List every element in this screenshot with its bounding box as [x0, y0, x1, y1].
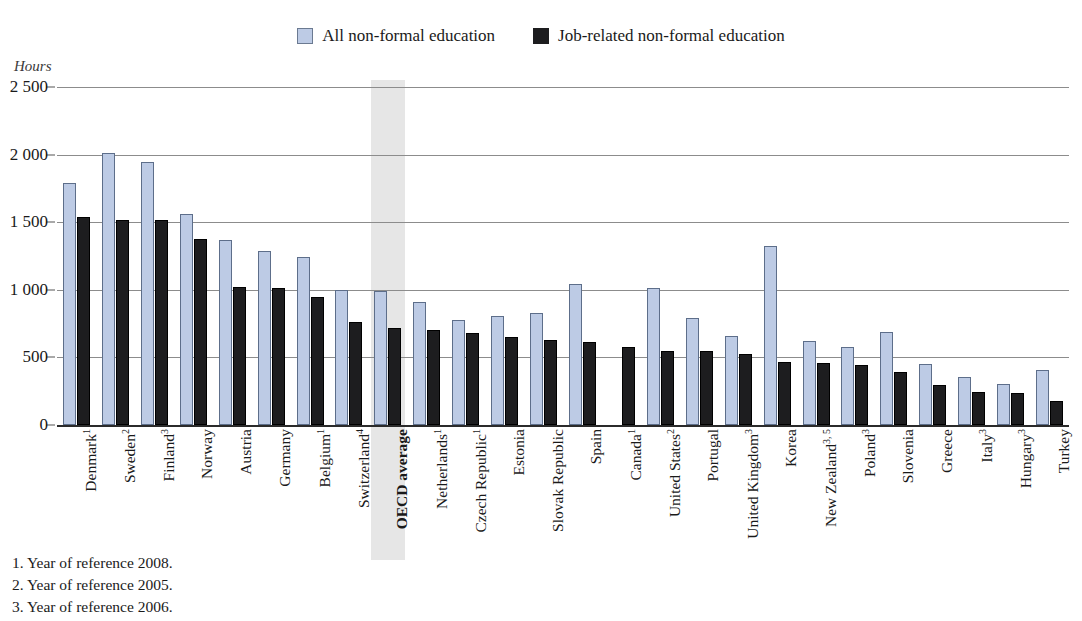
bar-group: [141, 87, 168, 425]
x-axis-label: Czech Republic1: [472, 429, 489, 533]
bar-job-related: [817, 363, 830, 425]
y-tick-label-2500: 2 500: [10, 77, 48, 97]
bar-job-related: [933, 385, 946, 425]
y-axis-units-label: Hours: [14, 58, 52, 75]
legend-swatch-job-icon: [533, 28, 549, 44]
bar-group: [219, 87, 246, 425]
x-axis-label: Sweden2: [121, 429, 138, 483]
bar-all-non-formal: [958, 377, 971, 425]
bar-job-related: [661, 351, 674, 425]
x-axis-label: Denmark1: [82, 429, 99, 492]
x-axis-label: Poland3: [861, 429, 878, 477]
bar-job-related: [583, 342, 596, 425]
bar-group: [258, 87, 285, 425]
x-axis-labels: Denmark1Sweden2Finland3NorwayAustriaGerm…: [57, 429, 1069, 549]
x-axis-label: Slovenia: [900, 429, 916, 483]
bar-all-non-formal: [647, 288, 660, 425]
x-axis-label: Turkey: [1056, 429, 1072, 473]
legend-swatch-all-icon: [297, 28, 313, 44]
gridline-500: [57, 357, 1069, 358]
bar-group: [841, 87, 868, 425]
bar-group: [102, 87, 129, 425]
bar-job-related: [466, 333, 479, 425]
bar-job-related: [311, 297, 324, 425]
y-tick-label-500: 500: [23, 347, 49, 367]
legend-item-all-non-formal: All non-formal education: [297, 26, 495, 46]
bar-job-related: [1050, 401, 1063, 425]
chart-legend: All non-formal education Job-related non…: [0, 26, 1082, 46]
x-axis-label: Netherlands1: [433, 429, 450, 509]
footnote-2: 2. Year of reference 2005.: [12, 574, 712, 596]
x-axis-label: Belgium1: [316, 429, 333, 487]
footnote-1: 1. Year of reference 2008.: [12, 552, 712, 574]
y-tick-label-0: 0: [40, 415, 49, 435]
x-axis-label: United Kingdom3: [744, 429, 761, 539]
bar-all-non-formal: [297, 257, 310, 425]
bar-job-related: [77, 217, 90, 425]
bar-group: [491, 87, 518, 425]
bar-group: [180, 87, 207, 425]
legend-label-job: Job-related non-formal education: [558, 26, 785, 46]
bar-all-non-formal: [1036, 370, 1049, 425]
bar-group: [608, 87, 635, 425]
bar-all-non-formal: [180, 214, 193, 425]
bar-all-non-formal: [141, 162, 154, 425]
chart-container: All non-formal education Job-related non…: [0, 0, 1082, 621]
bar-group: [919, 87, 946, 425]
bar-all-non-formal: [880, 332, 893, 425]
x-axis-label: OECD average: [394, 429, 410, 529]
bar-job-related: [155, 220, 168, 425]
gridline-1000: [57, 290, 1069, 291]
bar-group: [530, 87, 557, 425]
bar-all-non-formal: [335, 290, 348, 425]
bar-job-related: [233, 287, 246, 425]
x-axis-label: Korea: [783, 429, 799, 467]
footnote-3: 3. Year of reference 2006.: [12, 596, 712, 618]
y-tick-label-2000: 2 000: [10, 145, 48, 165]
bar-job-related: [739, 354, 752, 425]
bar-job-related: [1011, 393, 1024, 425]
bar-all-non-formal: [374, 291, 387, 425]
bar-job-related: [194, 239, 207, 425]
bar-all-non-formal: [803, 341, 816, 425]
bar-group: [374, 87, 401, 425]
bar-group: [413, 87, 440, 425]
legend-label-all: All non-formal education: [322, 26, 495, 46]
bar-group: [803, 87, 830, 425]
bar-all-non-formal: [258, 251, 271, 425]
x-axis-label: Hungary3: [1017, 429, 1034, 488]
x-axis-label: Norway: [199, 429, 215, 479]
bar-group: [297, 87, 324, 425]
bar-group: [997, 87, 1024, 425]
bar-group: [764, 87, 791, 425]
bar-job-related: [427, 330, 440, 425]
bar-group: [1036, 87, 1063, 425]
legend-item-job-related: Job-related non-formal education: [533, 26, 785, 46]
x-axis-label: New Zealand3, 5: [822, 429, 839, 527]
bar-job-related: [116, 220, 129, 426]
bar-all-non-formal: [997, 384, 1010, 425]
bar-job-related: [778, 362, 791, 425]
bar-all-non-formal: [919, 364, 932, 425]
bar-all-non-formal: [63, 183, 76, 425]
bar-group: [569, 87, 596, 425]
bar-job-related: [544, 340, 557, 425]
x-axis-label: Italy3: [978, 429, 995, 462]
bar-job-related: [622, 347, 635, 425]
x-axis-label: Finland3: [160, 429, 177, 481]
x-axis-label: Greece: [939, 429, 955, 473]
x-axis-label: Slovak Republic: [550, 429, 566, 532]
bar-all-non-formal: [725, 336, 738, 425]
plot-area: 05001 0001 5002 0002 500: [57, 87, 1069, 425]
gridline-2000: [57, 155, 1069, 156]
bar-job-related: [855, 365, 868, 425]
bar-all-non-formal: [686, 318, 699, 425]
x-axis-label: Estonia: [511, 429, 527, 476]
bar-job-related: [272, 288, 285, 425]
axis-baseline: [57, 425, 1069, 427]
bar-all-non-formal: [102, 153, 115, 425]
bar-all-non-formal: [841, 347, 854, 425]
x-axis-label: Austria: [238, 429, 254, 475]
bar-group: [725, 87, 752, 425]
bar-group: [686, 87, 713, 425]
